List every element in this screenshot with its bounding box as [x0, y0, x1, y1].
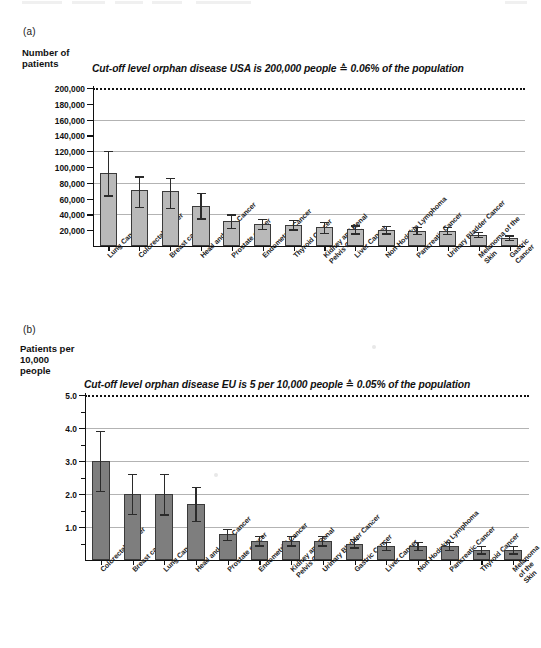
scan-speck: [372, 345, 376, 349]
error-bar-stem: [170, 178, 171, 208]
error-bar-stem: [108, 151, 109, 195]
error-bar-cap: [351, 225, 360, 226]
chart-panel-b: Cut-off level orphan disease EU is 5 per…: [0, 324, 541, 648]
error-bar-cap: [413, 227, 422, 228]
error-bar-cap: [223, 540, 232, 541]
error-bar-cap: [413, 234, 422, 235]
error-bar-cap: [477, 553, 486, 554]
error-bar-stem: [164, 474, 165, 514]
error-bar-stem: [231, 214, 232, 227]
error-bar-cap: [445, 542, 454, 543]
error-bar-cap: [104, 195, 113, 196]
y-axis-tick: [87, 230, 94, 231]
cutoff-line: [85, 395, 529, 397]
error-bar-cap: [443, 234, 452, 235]
error-bar-cap: [227, 228, 236, 229]
error-bar-cap: [135, 176, 144, 177]
y-axis-tick: [87, 120, 94, 121]
panel-a-cutoff-label: Cut-off level orphan disease USA is 200,…: [92, 62, 464, 74]
error-bar: [158, 474, 170, 514]
error-bar-stem: [227, 529, 228, 540]
error-bar-stem: [139, 176, 140, 207]
error-bar-stem: [324, 222, 325, 233]
error-bar-cap: [192, 487, 201, 488]
y-axis-minor-tick: [81, 445, 86, 446]
error-bar-stem: [262, 219, 263, 228]
y-axis-label: 4.0: [25, 424, 77, 434]
error-bar-cap: [320, 222, 329, 223]
error-bar-cap: [192, 521, 201, 522]
error-bar-cap: [477, 546, 486, 547]
error-bar: [195, 193, 207, 218]
error-bar: [442, 227, 454, 234]
error-bar: [444, 542, 456, 550]
y-axis-label: 140,000: [33, 131, 85, 141]
cutoff-line: [93, 88, 525, 90]
error-bar: [507, 546, 519, 553]
error-bar-cap: [350, 547, 359, 548]
y-axis-label: 120,000: [33, 147, 85, 157]
error-bar-cap: [382, 550, 391, 551]
error-bar: [380, 542, 392, 550]
error-bar-stem: [322, 536, 323, 545]
error-bar: [412, 542, 424, 550]
y-axis-tick: [79, 428, 86, 429]
error-bar-cap: [505, 240, 514, 241]
error-bar-cap: [382, 233, 391, 234]
error-bar: [317, 536, 329, 545]
error-bar-cap: [128, 474, 137, 475]
error-bar-cap: [474, 232, 483, 233]
error-bar: [102, 151, 114, 195]
error-bar-cap: [287, 536, 296, 537]
error-bar-cap: [160, 514, 169, 515]
y-axis-minor-tick: [81, 478, 86, 479]
y-axis-label: 200,000: [33, 84, 85, 94]
y-axis-label: 20,000: [33, 226, 85, 236]
y-axis-tick: [87, 183, 94, 184]
error-bar-cap: [223, 529, 232, 530]
chart-panel-a: Cut-off level orphan disease USA is 200,…: [0, 0, 541, 324]
error-bar-cap: [443, 227, 452, 228]
error-bar: [349, 539, 361, 548]
error-bar-stem: [200, 193, 201, 218]
error-bar: [133, 176, 145, 207]
error-bar-cap: [289, 229, 298, 230]
y-axis-tick: [87, 104, 94, 105]
error-bar-cap: [255, 536, 264, 537]
error-bar: [164, 178, 176, 208]
error-bar-cap: [474, 237, 483, 238]
error-bar: [253, 536, 265, 545]
error-bar-cap: [289, 220, 298, 221]
error-bar-cap: [318, 545, 327, 546]
error-bar-cap: [96, 491, 105, 492]
error-bar-cap: [318, 536, 327, 537]
error-bar-cap: [350, 539, 359, 540]
error-bar: [380, 226, 392, 234]
error-bar-stem: [100, 431, 101, 491]
gridline: [85, 494, 529, 495]
y-axis-label: 2.0: [25, 490, 77, 500]
error-bar-cap: [255, 545, 264, 546]
y-axis-label: 180,000: [33, 100, 85, 110]
scan-speck: [369, 520, 372, 523]
error-bar: [257, 219, 269, 228]
y-axis-label: 60,000: [33, 195, 85, 205]
y-axis-minor-tick: [81, 511, 86, 512]
error-bar: [226, 214, 238, 227]
error-bar-cap: [166, 178, 175, 179]
error-bar: [318, 222, 330, 233]
error-bar-cap: [320, 233, 329, 234]
error-bar-cap: [166, 208, 175, 209]
error-bar-stem: [259, 536, 260, 545]
error-bar-cap: [445, 550, 454, 551]
error-bar: [285, 536, 297, 545]
gridline: [93, 120, 525, 121]
error-bar-cap: [505, 235, 514, 236]
y-axis-minor-tick: [81, 544, 86, 545]
y-axis-tick: [87, 199, 94, 200]
error-bar: [127, 474, 139, 514]
error-bar-cap: [135, 207, 144, 208]
y-axis-tick: [87, 167, 94, 168]
y-axis-tick: [79, 494, 86, 495]
y-axis-label: 160,000: [33, 116, 85, 126]
